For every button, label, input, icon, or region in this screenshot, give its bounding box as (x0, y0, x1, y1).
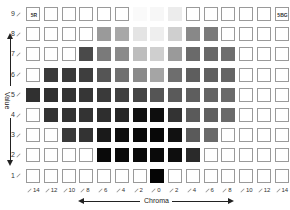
color-chip (275, 108, 289, 122)
color-chip (257, 169, 271, 183)
color-chip (204, 148, 218, 162)
color-chip (79, 108, 93, 122)
chroma-label: 8 (222, 187, 231, 193)
color-chip (257, 7, 271, 21)
color-chip (62, 27, 76, 41)
color-chip (79, 88, 93, 102)
color-chip (115, 169, 129, 183)
color-chip (239, 68, 253, 82)
value-label: 7 (11, 50, 21, 57)
value-label: 3 (11, 131, 21, 138)
color-chip (62, 169, 76, 183)
color-chip (221, 27, 235, 41)
color-chip (186, 128, 200, 142)
chroma-axis-line-right (172, 201, 230, 202)
color-chip (239, 27, 253, 41)
color-chip (26, 128, 40, 142)
chroma-label: 12 (45, 187, 58, 193)
color-chip (97, 27, 111, 41)
color-chip: 5BG (275, 7, 289, 21)
color-chip (239, 47, 253, 61)
color-chip (79, 27, 93, 41)
color-chip (186, 27, 200, 41)
color-chip (168, 148, 182, 162)
color-chip (150, 88, 164, 102)
color-chip (26, 108, 40, 122)
color-chip (62, 47, 76, 61)
color-chip (97, 7, 111, 21)
chroma-label: 14 (276, 187, 289, 193)
color-chip (257, 148, 271, 162)
color-chip (79, 7, 93, 21)
value-axis-line-top (10, 38, 11, 86)
color-chip (168, 128, 182, 142)
color-chip (204, 128, 218, 142)
color-chip (204, 68, 218, 82)
arrow-down-icon (7, 160, 13, 166)
color-chip (204, 108, 218, 122)
color-chip (79, 169, 93, 183)
color-chip (115, 148, 129, 162)
color-chip (275, 88, 289, 102)
color-chip (186, 68, 200, 82)
color-chip (257, 108, 271, 122)
color-chip (133, 88, 147, 102)
color-chip (239, 128, 253, 142)
hue-label-right: 5BG (276, 8, 290, 22)
color-chip (97, 108, 111, 122)
color-chip (133, 128, 147, 142)
color-chip (257, 88, 271, 102)
color-chip (115, 128, 129, 142)
color-chip (133, 169, 147, 183)
color-chip (186, 108, 200, 122)
color-chip (204, 169, 218, 183)
color-chip (204, 47, 218, 61)
color-chip (97, 47, 111, 61)
color-chip (79, 148, 93, 162)
color-chip (26, 68, 40, 82)
hue-label-left: 5R (27, 8, 41, 22)
color-chip (239, 108, 253, 122)
chroma-label: 10 (240, 187, 253, 193)
color-chip (97, 128, 111, 142)
color-chip (133, 47, 147, 61)
color-chip (221, 128, 235, 142)
color-chip (62, 148, 76, 162)
color-chip (168, 27, 182, 41)
color-chip (115, 108, 129, 122)
color-chip (204, 27, 218, 41)
color-chip (26, 88, 40, 102)
color-chip (62, 7, 76, 21)
color-chip (257, 68, 271, 82)
color-chip (257, 128, 271, 142)
color-chip (275, 68, 289, 82)
color-chip (115, 47, 129, 61)
value-label: 1 (11, 172, 21, 179)
color-chip (204, 7, 218, 21)
color-chip (150, 108, 164, 122)
color-chip (26, 148, 40, 162)
color-chip (26, 27, 40, 41)
color-chip (44, 47, 58, 61)
color-chip (97, 148, 111, 162)
color-chip (275, 148, 289, 162)
color-chip (79, 128, 93, 142)
color-chip (97, 68, 111, 82)
color-chip (44, 128, 58, 142)
color-chip (239, 148, 253, 162)
color-chip (133, 148, 147, 162)
color-chip (221, 148, 235, 162)
color-chip (239, 88, 253, 102)
color-chip (186, 148, 200, 162)
chroma-label: 10 (63, 187, 76, 193)
color-chip (168, 108, 182, 122)
color-chip (115, 27, 129, 41)
color-chip (150, 169, 164, 183)
color-chip (62, 68, 76, 82)
color-chip (44, 7, 58, 21)
color-chip (275, 128, 289, 142)
color-chip (115, 68, 129, 82)
color-chip (257, 47, 271, 61)
color-chip (150, 148, 164, 162)
chroma-label: 0 (151, 187, 160, 193)
